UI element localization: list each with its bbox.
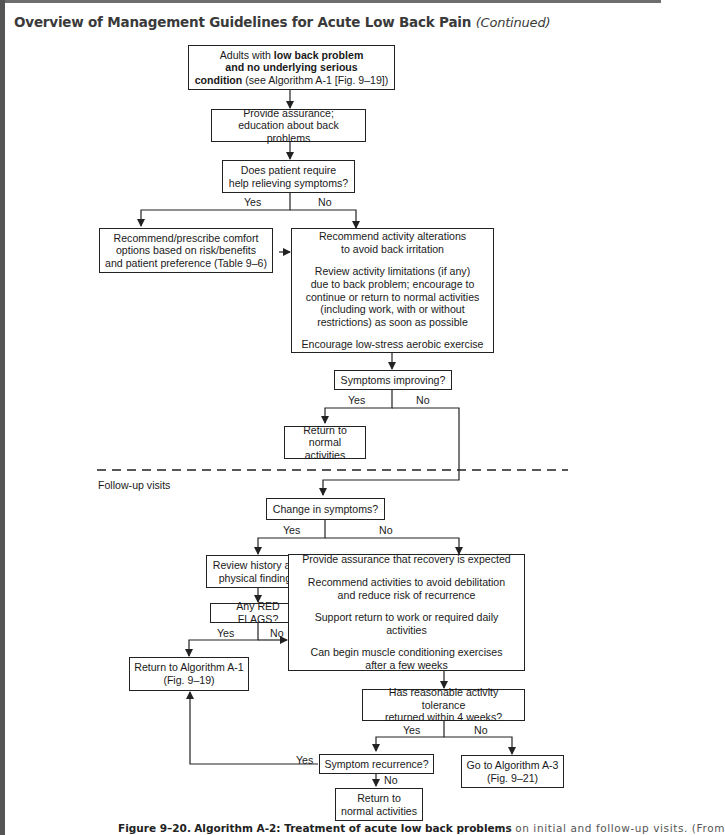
box-line: physical findings: [219, 572, 297, 585]
caption-text: on initial and follow-up visits. (From: [515, 822, 725, 834]
no-label: No: [416, 394, 430, 406]
yes-label: Yes: [244, 196, 261, 208]
box-line: due to back problem; encourage to: [311, 278, 475, 291]
box-line: and reduce risk of recurrence: [338, 589, 476, 602]
start-text: (see Algorithm A-1 [Fig. 9–19]): [242, 74, 388, 86]
return-algorithm-a1-box: Return to Algorithm A-1 (Fig. 9–19): [129, 657, 249, 691]
change-in-symptoms-decision: Change in symptoms?: [266, 498, 385, 520]
box-line: Recommend activity alterations: [319, 230, 466, 243]
recovery-expected-box: Provide assurance that recovery is expec…: [288, 554, 525, 671]
box-line: normal activities: [341, 805, 417, 818]
no-label: No: [474, 724, 488, 736]
box-line: after a few weeks: [365, 659, 447, 672]
box-line: Return to: [357, 792, 401, 805]
box-line: options based on risk/benefits: [116, 244, 256, 257]
start-text-bold: and no underlying serious: [225, 61, 357, 73]
box-line: continue or return to normal activities: [306, 291, 480, 304]
assurance-box: Provide assurance; education about back …: [211, 109, 366, 142]
box-line: normal activities: [289, 436, 361, 461]
box-line: Does patient require: [241, 164, 336, 177]
caption-title: Algorithm A-2: Treatment of acute low ba…: [194, 822, 512, 834]
box-line: Support return to work or required daily…: [293, 611, 520, 636]
activity-alterations-box: Recommend activity alterations to avoid …: [291, 228, 494, 353]
start-text: Adults with: [220, 49, 274, 61]
go-algorithm-a3-box: Go to Algorithm A-3 (Fig. 9–21): [461, 755, 564, 788]
activity-tolerance-decision: Has reasonable activity tolerance return…: [362, 689, 525, 721]
box-line: (Fig. 9–21): [487, 772, 538, 785]
box-line: Symptoms improving?: [341, 374, 446, 387]
box-line: Recommend/prescribe comfort: [114, 232, 259, 245]
caption-figure-number: Figure 9–20.: [118, 822, 191, 834]
no-label: No: [379, 524, 393, 536]
symptom-recurrence-decision: Symptom recurrence?: [319, 754, 434, 774]
box-line: education about back problems: [216, 119, 361, 144]
box-line: to avoid back irritation: [341, 243, 444, 256]
no-label: No: [270, 627, 284, 639]
start-text-bold: low back problem: [274, 49, 363, 61]
yes-label: Yes: [403, 724, 420, 736]
box-line: Symptom recurrence?: [324, 758, 428, 771]
start-box: Adults with low back problem and no unde…: [188, 45, 395, 90]
box-line: returned within 4 weeks?: [385, 711, 502, 724]
box-line: and patient preference (Table 9–6): [105, 257, 267, 270]
box-line: help relieving symptoms?: [229, 177, 349, 190]
yes-label: Yes: [348, 394, 365, 406]
no-label: No: [384, 774, 398, 786]
return-normal-activities-box-2: Return to normal activities: [335, 788, 423, 821]
require-help-decision: Does patient require help relieving symp…: [222, 160, 355, 193]
box-line: restrictions) as soon as possible: [317, 316, 468, 329]
box-line: Change in symptoms?: [273, 503, 378, 516]
yes-label: Yes: [217, 627, 234, 639]
box-line: Recommend activities to avoid debilitati…: [308, 576, 505, 589]
yes-label: Yes: [296, 754, 313, 766]
start-text-bold: condition: [195, 74, 243, 86]
return-normal-activities-box-1: Return to normal activities: [284, 426, 366, 459]
yes-label: Yes: [283, 524, 300, 536]
box-line: Return to: [303, 424, 347, 437]
box-line: (including work, with or without: [320, 303, 464, 316]
figure-caption: Figure 9–20. Algorithm A-2: Treatment of…: [118, 822, 725, 834]
box-line: Provide assurance that recovery is expec…: [302, 553, 510, 566]
symptoms-improving-decision: Symptoms improving?: [334, 370, 452, 390]
box-line: Provide assurance;: [243, 107, 334, 120]
box-line: Review activity limitations (if any): [315, 265, 470, 278]
comfort-options-box: Recommend/prescribe comfort options base…: [99, 228, 273, 273]
follow-up-visits-label: Follow-up visits: [98, 479, 170, 491]
box-line: (Fig. 9–19): [163, 674, 214, 687]
box-line: Encourage low-stress aerobic exercise: [302, 338, 484, 351]
box-line: Has reasonable activity tolerance: [367, 686, 520, 711]
box-line: Go to Algorithm A-3: [467, 759, 559, 772]
box-line: Can begin muscle conditioning exercises: [311, 646, 503, 659]
box-line: Return to Algorithm A-1: [134, 661, 244, 674]
no-label: No: [318, 196, 332, 208]
